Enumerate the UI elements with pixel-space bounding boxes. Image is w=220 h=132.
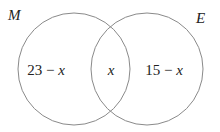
- region-only-m: 23 − x: [27, 63, 65, 78]
- region-intersection: x: [108, 63, 115, 78]
- region-only-e-number: 15: [145, 62, 160, 78]
- set-m-label: M: [8, 8, 21, 23]
- region-only-e: 15 − x: [145, 63, 183, 78]
- region-only-m-number: 23: [27, 62, 42, 78]
- region-intersection-variable: x: [108, 62, 115, 78]
- region-only-e-variable: x: [176, 62, 183, 78]
- set-e-label: E: [196, 11, 205, 26]
- region-only-e-operator: −: [160, 62, 176, 78]
- region-only-m-variable: x: [58, 62, 65, 78]
- region-only-m-operator: −: [42, 62, 58, 78]
